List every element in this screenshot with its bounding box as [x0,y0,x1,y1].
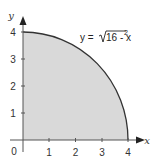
equation-exponent: 2 [124,29,128,36]
y-tick-label-3: 3 [10,54,16,65]
y-tick-label-1: 1 [10,108,16,119]
origin-label: 0 [11,146,17,157]
shaded-region [23,32,128,140]
x-tick-label-4: 4 [125,147,131,158]
y-tick-label-4: 4 [10,27,16,38]
equation-prefix: y = [80,32,94,43]
x-tick-label-3: 3 [99,147,105,158]
x-axis-label: x [144,135,150,146]
y-axis-arrow-icon [20,16,27,25]
x-tick-label-2: 2 [73,147,79,158]
chart-canvas: 0 1 2 3 4 1 2 3 4 x y y = 16 - x 2 [0,0,151,162]
equation-annotation: y = 16 - x 2 [80,29,131,43]
y-tick-label-2: 2 [10,81,16,92]
y-axis-label: y [7,10,14,21]
x-tick-label-1: 1 [46,147,52,158]
